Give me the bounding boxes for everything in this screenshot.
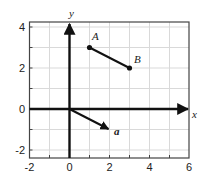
point-b: [127, 65, 132, 70]
point-a: [87, 45, 92, 50]
point-a-label: A: [91, 30, 99, 42]
y-tick-label: 2: [19, 62, 25, 74]
coordinate-plane: -2 0 2 4 6 4 2 0 -2 x y A B a: [0, 0, 207, 175]
x-tick-label: -2: [25, 161, 35, 173]
y-tick-label: 0: [19, 103, 25, 115]
x-tick-label: 2: [106, 161, 112, 173]
y-axis-label: y: [68, 7, 74, 19]
x-tick-label: 6: [186, 161, 192, 173]
x-axis-label: x: [191, 108, 197, 120]
vector-a-label: a: [114, 125, 120, 137]
grid: [30, 22, 190, 158]
point-b-label: B: [134, 53, 141, 65]
x-tick-label: 0: [66, 161, 72, 173]
y-tick-label: 4: [19, 21, 25, 33]
frame-ticks: [30, 27, 170, 158]
y-tick-label: -2: [15, 144, 25, 156]
x-tick-label: 4: [146, 161, 152, 173]
